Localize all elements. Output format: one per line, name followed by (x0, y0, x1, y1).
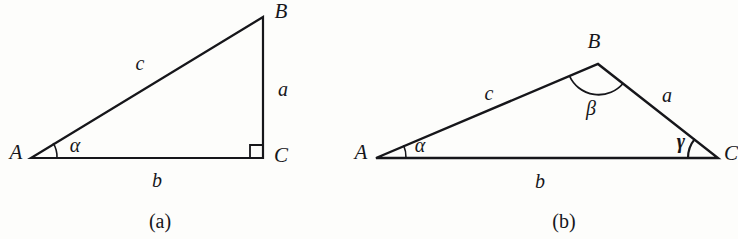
triangle-a (31, 17, 263, 158)
side-label-c-panel-b: c (485, 83, 494, 103)
side-label-c-panel-a: c (136, 53, 145, 73)
angle-label-alpha-panel-a: α (70, 135, 81, 155)
vertex-label-b-panel-a: B (275, 1, 288, 22)
angle-arc-alpha-a (53, 143, 57, 158)
triangle-b (376, 64, 718, 158)
side-label-a-panel-a: a (278, 79, 288, 99)
angle-arc-gamma-b (688, 139, 695, 158)
angle-label-alpha-panel-b: α (415, 135, 426, 155)
caption-panel-b: (b) (552, 210, 575, 233)
vertex-label-c-panel-b: C (724, 143, 738, 164)
right-angle-marker-c (250, 145, 263, 158)
angle-label-beta-panel-b: β (586, 98, 596, 118)
triangle-a-outline (31, 17, 263, 158)
triangle-b-outline (376, 64, 718, 158)
vertex-label-c-panel-a: C (274, 145, 288, 166)
angle-arc-alpha-b (404, 145, 406, 158)
side-label-a-panel-b: a (662, 85, 672, 105)
vertex-label-a-panel-b: A (355, 142, 368, 163)
angle-label-gamma-panel-b: γ (677, 131, 685, 151)
side-label-b-panel-a: b (152, 170, 162, 190)
side-label-b-panel-b: b (535, 171, 545, 191)
caption-panel-a: (a) (149, 210, 171, 233)
vertex-label-a-panel-a: A (10, 142, 23, 163)
geometry-canvas (0, 0, 738, 239)
vertex-label-b-panel-b: B (588, 31, 601, 52)
figure-root: A B C a b c α (a) A B C a b c α β γ (b) (0, 0, 738, 239)
